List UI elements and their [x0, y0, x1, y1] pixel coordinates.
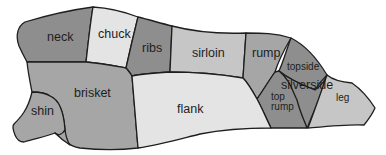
- label-shin: shin: [31, 104, 54, 118]
- label-ribs: ribs: [142, 41, 162, 55]
- label-rump: rump: [252, 46, 281, 60]
- label-sirloin: sirloin: [192, 46, 225, 60]
- label-topside: topside: [287, 61, 320, 72]
- label-leg: leg: [336, 92, 349, 103]
- label-chuck: chuck: [98, 27, 131, 41]
- label-flank: flank: [177, 102, 204, 116]
- label-neck: neck: [47, 30, 74, 44]
- label-top-rump-line2: rump: [271, 101, 294, 112]
- beef-cuts-diagram: neck chuck ribs sirloin rump topside sil…: [0, 0, 386, 155]
- label-silverside: silverside: [281, 78, 333, 92]
- label-brisket: brisket: [74, 86, 111, 100]
